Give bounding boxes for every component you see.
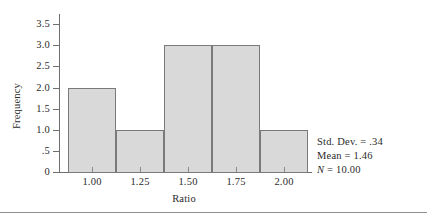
- y-tick-0: [53, 172, 59, 173]
- x-tick-1-00: [92, 167, 93, 172]
- y-axis-line: [59, 14, 60, 173]
- y-tick-label: 3.5: [2, 19, 50, 29]
- y-tick-label-wrap-0: 0: [0, 167, 50, 177]
- x-tick-label: 1.00: [68, 176, 116, 188]
- histogram-bar: [212, 45, 260, 173]
- x-axis-title: Ratio: [59, 193, 309, 205]
- figure-bottom-rule: [0, 212, 427, 213]
- y-tick-1-5: [53, 109, 59, 110]
- x-tick-label: 1.75: [212, 176, 260, 188]
- x-tick-2-00: [284, 167, 285, 172]
- x-tick-1-25: [140, 167, 141, 172]
- y-tick-0-5: [53, 151, 59, 152]
- y-tick-label: 2.0: [2, 83, 50, 93]
- stat-mean: Mean = 1.46: [317, 149, 422, 163]
- stat-n: N = 10.00: [317, 163, 422, 177]
- y-tick-label: .5: [2, 146, 50, 156]
- y-tick-2-5: [53, 66, 59, 67]
- y-tick-label-wrap-0-5: .5: [0, 146, 50, 156]
- y-tick-1-0: [53, 130, 59, 131]
- y-tick-label: 2.5: [2, 61, 50, 71]
- x-tick-label: 1.25: [116, 176, 164, 188]
- stat-std-dev: Std. Dev. = .34: [317, 135, 422, 149]
- y-tick-3-5: [53, 24, 59, 25]
- stat-n-value: = 10.00: [324, 164, 360, 175]
- y-tick-2-0: [53, 88, 59, 89]
- y-tick-label: 1.0: [2, 125, 50, 135]
- histogram-figure: 3.5 3.0 2.5 2.0 1.5 1.0 .5 0 1.00 1.25 1…: [0, 0, 427, 221]
- x-tick-1-75: [236, 167, 237, 172]
- x-tick-label: 2.00: [260, 176, 308, 188]
- y-tick-label-wrap-3-0: 3.0: [0, 40, 50, 50]
- histogram-bar: [164, 45, 212, 173]
- y-tick-label: 3.0: [2, 40, 50, 50]
- y-tick-label: 0: [2, 167, 50, 177]
- y-tick-label-wrap-1-5: 1.5: [0, 104, 50, 114]
- y-tick-3-0: [53, 45, 59, 46]
- y-tick-label: 1.5: [2, 104, 50, 114]
- y-tick-label-wrap-3-5: 3.5: [0, 19, 50, 29]
- y-axis-title: Frequency: [11, 66, 23, 146]
- y-tick-label-wrap-2-5: 2.5: [0, 61, 50, 71]
- y-tick-label-wrap-2-0: 2.0: [0, 83, 50, 93]
- x-tick-label: 1.50: [164, 176, 212, 188]
- histogram-bar: [68, 88, 116, 173]
- stats-annotation-block: Std. Dev. = .34 Mean = 1.46 N = 10.00: [317, 135, 422, 177]
- y-tick-label-wrap-1-0: 1.0: [0, 125, 50, 135]
- x-tick-1-50: [188, 167, 189, 172]
